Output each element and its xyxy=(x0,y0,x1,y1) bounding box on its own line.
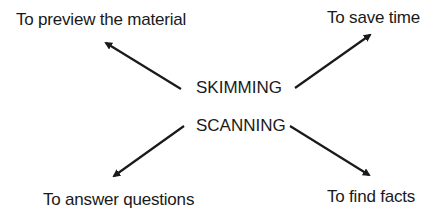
purpose-find-facts: To find facts xyxy=(327,187,415,207)
term-scanning: SCANNING xyxy=(196,116,286,136)
purpose-preview-material: To preview the material xyxy=(16,10,186,30)
arrow-to-save-time xyxy=(295,35,370,88)
purpose-answer-questions: To answer questions xyxy=(43,190,194,210)
arrow-to-answer-questions xyxy=(114,126,184,176)
arrow-to-find-facts xyxy=(290,126,369,175)
arrow-to-preview xyxy=(106,43,181,89)
term-skimming: SKIMMING xyxy=(196,78,282,98)
purpose-save-time: To save time xyxy=(327,8,420,28)
skimming-scanning-diagram: To preview the material To save time SKI… xyxy=(0,0,434,221)
